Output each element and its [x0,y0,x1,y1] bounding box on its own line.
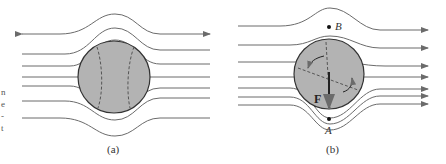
force-label: F [314,92,321,106]
figure: n e - t (a) [0,0,446,164]
caption-b: (b) [326,143,339,156]
panel-b [238,8,428,130]
label-b: B [335,20,342,32]
panel-a [22,14,210,136]
flow-diagram: (a) B A F (b) [0,0,446,164]
label-a: A [324,124,332,136]
caption-a: (a) [107,143,120,156]
